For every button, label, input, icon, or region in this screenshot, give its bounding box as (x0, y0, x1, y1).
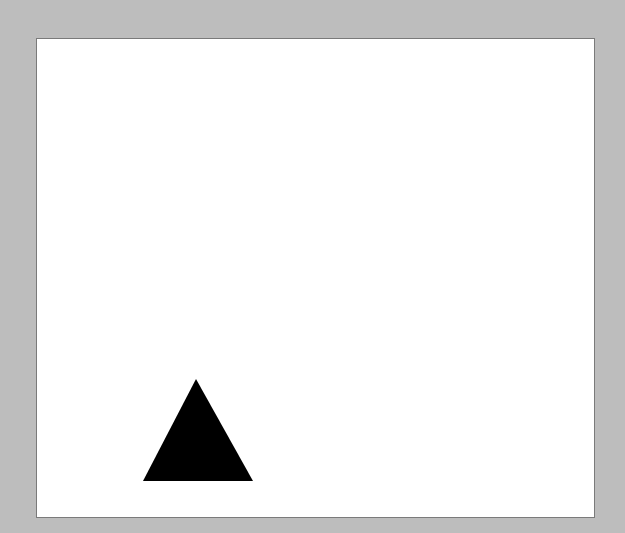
drawing-canvas (36, 38, 595, 518)
